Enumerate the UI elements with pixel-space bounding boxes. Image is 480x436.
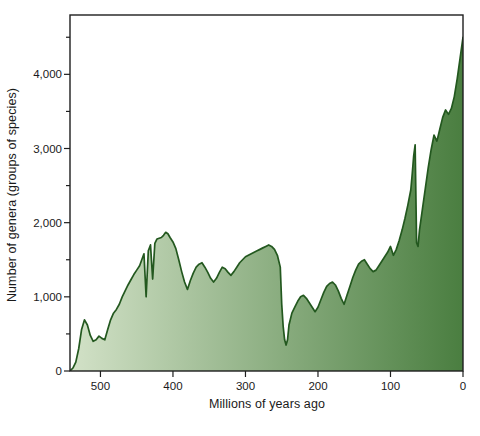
y-tick-label: 4,000: [18, 68, 62, 80]
x-tick-label: 0: [441, 380, 480, 392]
y-tick-label: 0: [18, 365, 62, 377]
x-tick-label: 200: [296, 380, 340, 392]
y-tick-label: 2,000: [18, 217, 62, 229]
biodiversity-chart-figure: Number of genera (groups of species) Mil…: [0, 0, 480, 436]
biodiversity-area: [70, 37, 463, 371]
y-axis-label: Number of genera (groups of species): [5, 88, 19, 302]
x-tick-label: 300: [223, 380, 267, 392]
x-tick-label: 400: [151, 380, 195, 392]
y-tick-label: 3,000: [18, 143, 62, 155]
y-tick-label: 1,000: [18, 291, 62, 303]
x-tick-label: 100: [368, 380, 412, 392]
series-area-group: [70, 37, 463, 371]
x-tick-label: 500: [78, 380, 122, 392]
x-axis-label: Millions of years ago: [70, 397, 464, 411]
y-axis-label-container: Number of genera (groups of species): [0, 0, 24, 390]
plot-area: [0, 0, 480, 436]
